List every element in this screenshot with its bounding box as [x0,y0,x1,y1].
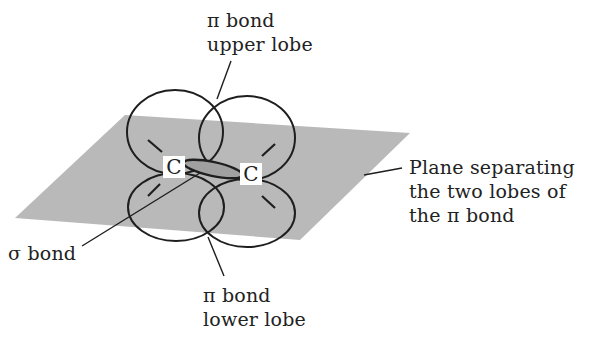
label-plane: Plane separating the two lobes of the π … [409,155,575,227]
label-sigma-bond: σ bond [8,241,76,265]
label-line: π bond [207,8,313,32]
carbon-atom-right: C [240,163,262,185]
label-line: Plane separating [409,155,575,179]
separating-plane [15,115,410,240]
label-line: lower lobe [203,307,306,331]
label-pi-lower-lobe: π bond lower lobe [203,283,306,331]
label-line: π bond [203,283,306,307]
label-line: the π bond [409,203,575,227]
label-line: the two lobes of [409,179,575,203]
label-line: upper lobe [207,32,313,56]
label-line: σ bond [8,241,76,265]
carbon-atom-left: C [163,156,185,178]
label-pi-upper-lobe: π bond upper lobe [207,8,313,56]
